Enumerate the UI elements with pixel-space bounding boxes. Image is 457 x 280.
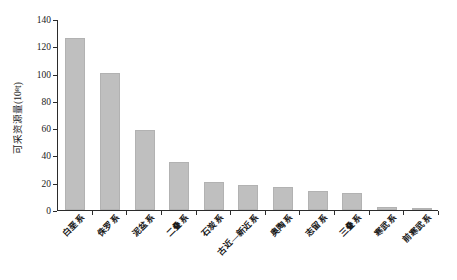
bar-前寒武系 xyxy=(412,208,432,210)
bars-layer xyxy=(58,20,438,210)
bar-slot xyxy=(197,20,232,210)
bar-slot xyxy=(300,20,335,210)
bar-奥陶系 xyxy=(273,187,293,210)
y-tick-mark xyxy=(53,75,57,76)
bar-slot xyxy=(231,20,266,210)
x-axis-label-石炭系: 石炭系 xyxy=(200,213,225,238)
x-axis-line xyxy=(57,210,438,212)
bar-寒武系 xyxy=(377,207,397,210)
plot-area: 020406080100120140 xyxy=(57,20,438,211)
bar-泥盆系 xyxy=(135,130,155,210)
y-tick-label: 60 xyxy=(42,124,52,134)
y-tick-mark xyxy=(53,20,57,21)
x-axis-label-寒武系: 寒武系 xyxy=(373,213,398,238)
bar-slot xyxy=(93,20,128,210)
y-axis-title: 可采资源量(10⁸t) xyxy=(10,58,28,178)
x-axis-labels: 白垩系侏罗系泥盆系二叠系石炭系古近—新近系奥陶系志留系三叠系寒武系前寒武系 xyxy=(57,213,438,279)
bar-slot xyxy=(266,20,301,210)
bar-侏罗系 xyxy=(100,73,120,210)
bar-志留系 xyxy=(308,191,328,210)
bar-slot xyxy=(127,20,162,210)
y-tick-label: 40 xyxy=(42,151,52,161)
y-tick-label: 80 xyxy=(42,97,52,107)
bar-slot xyxy=(404,20,439,210)
y-tick-label: 0 xyxy=(46,206,51,216)
y-tick-mark xyxy=(53,47,57,48)
y-tick-label: 120 xyxy=(37,42,51,52)
x-axis-label-泥盆系: 泥盆系 xyxy=(130,213,155,238)
bar-白垩系 xyxy=(65,38,85,210)
y-tick-mark xyxy=(53,211,57,212)
y-tick-mark xyxy=(53,156,57,157)
bar-slot xyxy=(335,20,370,210)
bar-chart: 可采资源量(10⁸t) 020406080100120140 白垩系侏罗系泥盆系… xyxy=(0,0,457,280)
y-tick-label: 20 xyxy=(42,179,52,189)
x-axis-label-二叠系: 二叠系 xyxy=(165,213,190,238)
x-tick-mark xyxy=(438,211,439,215)
y-tick-mark xyxy=(53,129,57,130)
x-axis-label-前寒武系: 前寒武系 xyxy=(401,213,432,244)
bar-slot xyxy=(370,20,405,210)
bar-石炭系 xyxy=(204,182,224,209)
bar-二叠系 xyxy=(169,162,189,209)
bar-古近—新近系 xyxy=(238,185,258,209)
x-axis-label-白垩系: 白垩系 xyxy=(61,213,86,238)
x-axis-label-奥陶系: 奥陶系 xyxy=(269,213,294,238)
y-axis-title-text: 可采资源量(10⁸t) xyxy=(14,82,24,154)
y-tick-mark xyxy=(53,102,57,103)
bar-三叠系 xyxy=(342,193,362,209)
y-tick-label: 140 xyxy=(37,15,51,25)
x-axis-label-侏罗系: 侏罗系 xyxy=(96,213,121,238)
x-axis-label-志留系: 志留系 xyxy=(304,213,329,238)
y-tick-label: 100 xyxy=(37,70,51,80)
bar-slot xyxy=(58,20,93,210)
x-axis-label-三叠系: 三叠系 xyxy=(338,213,363,238)
bar-slot xyxy=(162,20,197,210)
y-tick-mark xyxy=(53,184,57,185)
